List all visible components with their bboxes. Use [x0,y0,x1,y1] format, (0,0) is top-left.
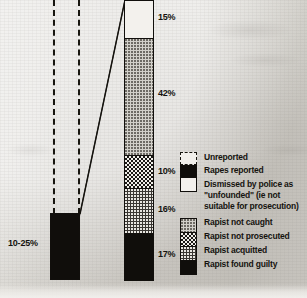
legend-label-dismissed-line3: suitable for prosecution) [204,201,299,213]
guide-line-left [53,0,55,214]
percent-label-17: 17% [158,249,175,259]
legend-label-dismissed-line1: Dismissed by police as [204,179,293,191]
segment-rapist-not-prosecuted[interactable] [125,156,153,189]
legend-label-rapist-not-prosecuted: Rapist not prosecuted [204,231,290,243]
percent-label-16: 16% [158,204,175,214]
legend-swatch-rapes-reported[interactable] [180,165,197,178]
percent-label-15: 15% [158,12,175,22]
legend-swatch-rapist-acquitted[interactable] [181,247,196,261]
segment-dismissed-by-police[interactable] [125,1,153,39]
legend-swatch-stack-top [180,152,197,192]
legend-label-rapist-not-caught: Rapist not caught [204,217,272,229]
reported-rapes-bar[interactable] [50,213,80,280]
guide-line-right [78,0,80,214]
legend-swatch-rapist-not-prosecuted[interactable] [181,233,196,247]
page-bottom-edge [0,284,307,298]
percent-label-10: 10% [158,166,175,176]
segment-rapist-not-caught[interactable] [125,39,153,156]
reported-rapes-bar-label: 10-25% [8,238,38,248]
legend-swatch-rapist-found-guilty[interactable] [181,261,196,274]
percent-label-42: 42% [158,88,175,98]
legend-label-unreported: Unreported [204,152,248,164]
legend-label-rapist-acquitted: Rapist acquitted [204,245,267,257]
outcome-stacked-bar[interactable] [124,0,154,281]
legend: Unreported Rapes reported Dismissed by p… [179,150,307,280]
segment-rapist-found-guilty[interactable] [125,234,153,280]
legend-label-dismissed-line2: "unfounded" (ie not [204,190,280,202]
legend-label-rapist-found-guilty: Rapist found guilty [204,259,277,271]
segment-rapist-acquitted[interactable] [125,189,153,234]
legend-swatch-unreported[interactable] [180,152,197,165]
legend-swatch-rapist-not-caught[interactable] [181,219,196,233]
legend-swatch-dismissed[interactable] [180,178,197,192]
legend-swatch-stack-bottom [180,218,197,275]
legend-label-rapes-reported: Rapes reported [204,165,264,177]
